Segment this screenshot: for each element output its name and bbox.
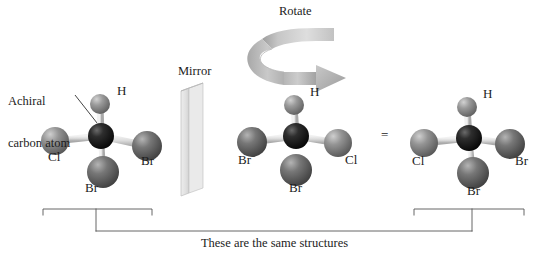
label-m1-bromine-right: Br	[141, 154, 154, 169]
molecule-right	[410, 97, 525, 189]
label-m2-bromine-left: Br	[238, 153, 251, 168]
label-m3-chlorine: Cl	[412, 154, 424, 169]
atom-hydrogen	[90, 94, 110, 114]
rotate-arrow-icon	[247, 28, 346, 92]
atom-carbon-center	[283, 123, 309, 149]
mirror-label: Mirror	[178, 64, 211, 78]
label-m3-bromine-bottom: Br	[467, 184, 480, 199]
grouping-brackets	[43, 209, 524, 231]
label-m3-bromine-right: Br	[515, 154, 528, 169]
label-m2-chlorine: Cl	[345, 153, 357, 168]
achiral-annotation-line1: Achiral	[8, 94, 70, 108]
label-m1-chlorine: Cl	[48, 150, 60, 165]
mirror-plane-icon	[181, 83, 203, 196]
label-m3-hydrogen: H	[483, 87, 492, 102]
atom-hydrogen	[457, 97, 477, 117]
diagram-graphics	[0, 0, 549, 261]
achiral-annotation-line2: carbon atom	[8, 136, 70, 150]
bracket-right	[414, 209, 524, 215]
chirality-diagram: Achiral carbon atom Mirror Rotate H Cl B…	[0, 0, 549, 261]
equals-sign: =	[381, 128, 388, 143]
label-m1-hydrogen: H	[117, 84, 126, 99]
atom-carbon-center	[456, 125, 482, 151]
label-m2-bromine-bottom: Br	[289, 181, 302, 196]
label-m2-hydrogen: H	[310, 85, 319, 100]
label-m1-bromine-bottom: Br	[85, 181, 98, 196]
figure-caption: These are the same structures	[0, 236, 549, 250]
bracket-left	[43, 209, 152, 215]
achiral-carbon-annotation: Achiral carbon atom	[8, 66, 70, 178]
atom-hydrogen	[284, 95, 304, 115]
atom-carbon-center	[88, 123, 114, 149]
molecule-middle	[237, 95, 352, 186]
rotate-label: Rotate	[279, 4, 312, 18]
